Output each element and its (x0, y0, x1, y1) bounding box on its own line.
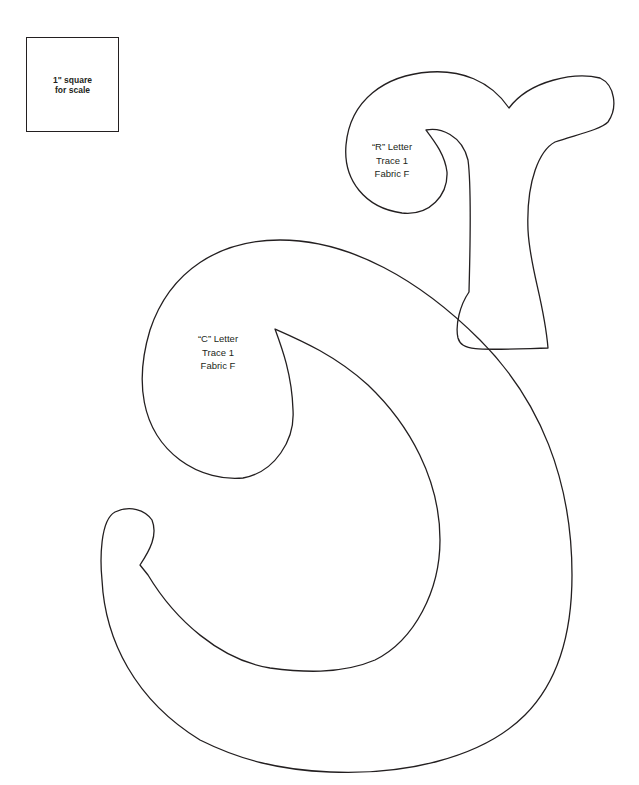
c-letter-fabric: Fabric F (190, 359, 246, 373)
c-letter-title: “C” Letter (190, 332, 246, 346)
r-letter-outline (346, 72, 614, 350)
c-letter-label: “C” Letter Trace 1 Fabric F (190, 332, 246, 373)
pattern-outlines (0, 0, 639, 785)
r-letter-title: “R” Letter (364, 140, 420, 154)
r-letter-label: “R” Letter Trace 1 Fabric F (364, 140, 420, 181)
r-letter-trace: Trace 1 (364, 154, 420, 168)
c-letter-trace: Trace 1 (190, 346, 246, 360)
c-letter-outline (101, 240, 572, 772)
r-letter-fabric: Fabric F (364, 167, 420, 181)
